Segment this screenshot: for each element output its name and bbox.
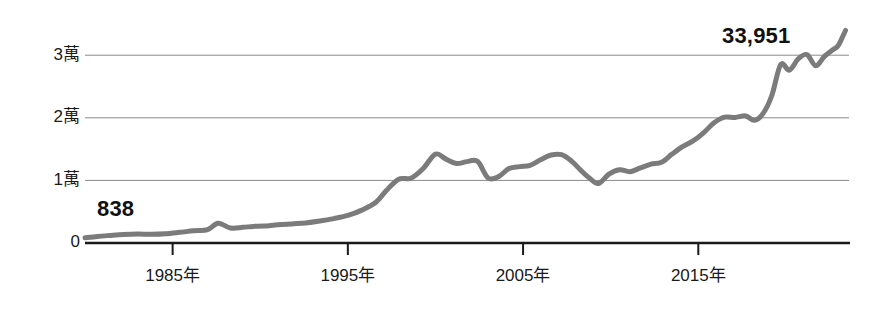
annotation-start-value: 838 [97,196,134,221]
y-tick-label-30000: 3萬 [54,45,80,64]
chart-canvas: 3萬 2萬 1萬 0 1985年1995年2005年2015年 838 33,9… [0,0,890,322]
x-axis-tick-labels-group: 1985年1995年2005年2015年 [145,266,726,285]
stock-index-line-chart: 3萬 2萬 1萬 0 1985年1995年2005年2015年 838 33,9… [0,0,890,322]
annotation-end-value: 33,951 [722,23,791,48]
x-tick-label-1985: 1985年 [145,266,200,285]
x-tick-label-1995: 1995年 [320,266,375,285]
x-tick-label-2005: 2005年 [496,266,551,285]
x-tick-label-2015: 2015年 [671,266,726,285]
x-axis-ticks-group [173,243,699,255]
y-tick-label-10000: 1萬 [54,170,80,189]
y-axis-tick-labels: 3萬 2萬 1萬 0 [54,45,80,252]
y-tick-label-0: 0 [71,232,80,251]
index-line-series [85,30,846,237]
y-tick-label-20000: 2萬 [54,107,80,126]
